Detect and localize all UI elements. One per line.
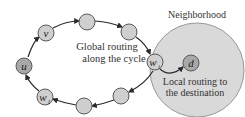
edge-wi-n5 (129, 71, 153, 92)
local-routing-line2: the destination (166, 87, 225, 98)
local-routing-line1: Local routing to (163, 76, 227, 87)
neighborhood-region (150, 23, 244, 117)
node-cycle-5 (113, 88, 129, 104)
node-cycle-3 (121, 24, 137, 40)
node-v-label: v (44, 27, 49, 39)
edge-u-v (28, 37, 39, 57)
node-cycle-6 (76, 98, 92, 114)
node-cycle-2 (79, 14, 95, 30)
edge-n6-w1 (53, 99, 76, 105)
edge-v-n2 (53, 21, 79, 28)
global-routing-line2: along the cycle (82, 53, 146, 64)
neighborhood-label: Neighborhood (168, 9, 226, 20)
node-d-label: d (188, 57, 194, 69)
node-wi-label: w (149, 56, 157, 68)
node-w1-label: w (39, 91, 47, 103)
edge-w1-u (26, 75, 39, 91)
cycle-routing-diagram: Neighborhood u v w i w 1 d Global routin… (0, 0, 245, 117)
global-routing-line1: Global routing (76, 41, 138, 52)
edge-n2-n3 (95, 21, 122, 27)
edge-n5-n6 (92, 100, 114, 106)
node-u-label: u (21, 60, 27, 72)
node-w1-subscript: 1 (48, 99, 51, 105)
edge-n3-wi (136, 37, 150, 54)
